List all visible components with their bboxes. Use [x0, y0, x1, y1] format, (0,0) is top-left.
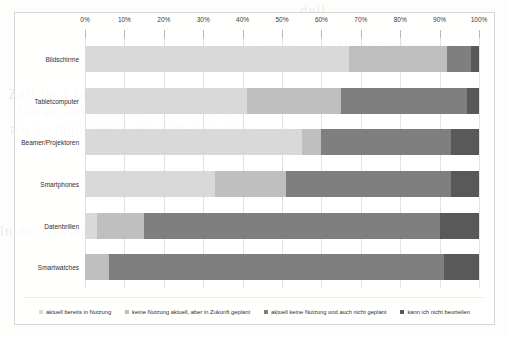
category-label: Datenbrillen	[44, 222, 79, 229]
legend-item[interactable]: aktuell bereits in Nutzung	[39, 309, 111, 315]
x-axis-tick	[85, 30, 86, 38]
x-axis-tick-label: 90%	[433, 16, 446, 23]
chart-container: 0%10%20%30%40%50%60%70%80%90%100% Bildsc…	[14, 12, 495, 325]
bar-row: Tabletcomputer	[85, 88, 479, 114]
category-label: Smartwatches	[38, 264, 79, 271]
bar-segment	[85, 213, 97, 239]
x-axis-tick	[164, 30, 165, 38]
bar-row: Datenbrillen	[85, 213, 479, 239]
legend-divider	[25, 297, 484, 298]
legend-swatch-icon	[39, 310, 43, 314]
x-axis-tick-label: 60%	[315, 16, 328, 23]
x-axis-tick-label: 20%	[157, 16, 170, 23]
x-axis-tick	[124, 30, 125, 38]
x-axis-tick-label: 50%	[275, 16, 288, 23]
bar-segment	[247, 88, 342, 114]
plot-area: BildschirmeTabletcomputerBeamer/Projekto…	[85, 38, 479, 288]
bar-rows: BildschirmeTabletcomputerBeamer/Projekto…	[85, 38, 479, 288]
bar-segment	[447, 46, 471, 72]
stacked-bar	[85, 46, 479, 72]
x-axis-tick-label: 80%	[394, 16, 407, 23]
chart-legend: aktuell bereits in Nutzungkeine Nutzung …	[15, 309, 494, 315]
legend-swatch-icon	[400, 310, 404, 314]
bar-segment	[302, 129, 322, 155]
x-axis-tick	[400, 30, 401, 38]
stacked-bar	[85, 213, 479, 239]
bar-segment	[85, 129, 302, 155]
legend-item[interactable]: kann ich nicht beurteilen	[400, 309, 470, 315]
x-axis-tick-label: 40%	[236, 16, 249, 23]
x-axis-tick	[479, 30, 480, 38]
bar-segment	[440, 213, 479, 239]
bar-segment	[471, 46, 479, 72]
bar-segment	[85, 254, 109, 280]
x-axis-tick	[321, 30, 322, 38]
gridline	[479, 38, 480, 288]
legend-swatch-icon	[125, 310, 129, 314]
bar-segment	[286, 171, 451, 197]
legend-label: aktuell bereits in Nutzung	[46, 309, 111, 315]
bar-row: Beamer/Projektoren	[85, 129, 479, 155]
category-label: Bildschirme	[45, 55, 79, 62]
bar-segment	[97, 213, 144, 239]
legend-label: kann ich nicht beurteilen	[407, 309, 470, 315]
legend-label: aktuell keine Nutzung und auch nicht gep…	[271, 309, 386, 315]
bar-row: Smartphones	[85, 171, 479, 197]
x-axis-tick-label: 100%	[471, 16, 488, 23]
bar-segment	[349, 46, 448, 72]
bar-segment	[467, 88, 479, 114]
x-axis-tick	[440, 30, 441, 38]
bar-segment	[341, 88, 467, 114]
legend-label: keine Nutzung aktuell, aber in Zukunft g…	[132, 309, 250, 315]
bar-segment	[451, 129, 479, 155]
stacked-bar	[85, 171, 479, 197]
bar-segment	[109, 254, 444, 280]
bar-segment	[215, 171, 286, 197]
bar-row: Smartwatches	[85, 254, 479, 280]
bar-row: Bildschirme	[85, 46, 479, 72]
x-axis-tick	[361, 30, 362, 38]
bar-segment	[144, 213, 440, 239]
legend-swatch-icon	[264, 310, 268, 314]
bar-segment	[451, 171, 479, 197]
x-axis-tick-labels: 0%10%20%30%40%50%60%70%80%90%100%	[85, 16, 479, 30]
bar-segment	[321, 129, 451, 155]
category-label: Tabletcomputer	[35, 97, 79, 104]
stacked-bar	[85, 254, 479, 280]
x-axis-tick-label: 30%	[197, 16, 210, 23]
x-axis-tick-label: 10%	[118, 16, 131, 23]
x-axis-tick-label: 0%	[80, 16, 89, 23]
category-label: Smartphones	[40, 180, 79, 187]
stacked-bar	[85, 129, 479, 155]
category-label: Beamer/Projektoren	[21, 139, 79, 146]
legend-item[interactable]: keine Nutzung aktuell, aber in Zukunft g…	[125, 309, 250, 315]
x-axis-tick	[243, 30, 244, 38]
bar-segment	[85, 46, 349, 72]
x-axis-tick-label: 70%	[354, 16, 367, 23]
bar-segment	[444, 254, 479, 280]
bar-segment	[85, 88, 247, 114]
stacked-bar	[85, 88, 479, 114]
legend-item[interactable]: aktuell keine Nutzung und auch nicht gep…	[264, 309, 386, 315]
x-axis-tick	[203, 30, 204, 38]
bar-segment	[85, 171, 215, 197]
x-axis-tick	[282, 30, 283, 38]
